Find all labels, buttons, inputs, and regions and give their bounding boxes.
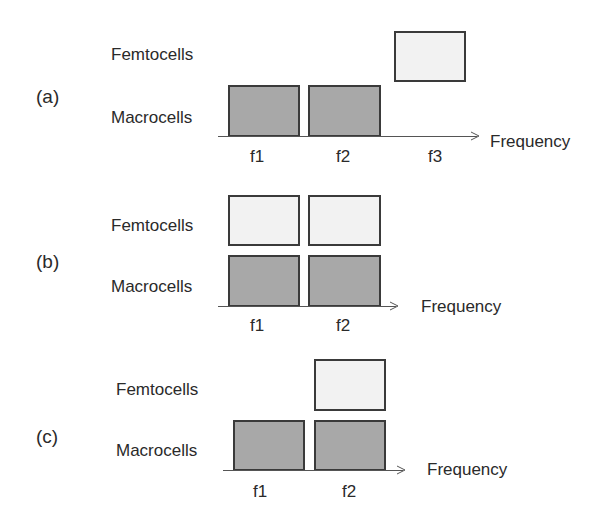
macrocells-label: Macrocells [111,277,192,297]
arrowhead-icon [470,131,480,141]
femtocells-label: Femtocells [111,216,193,236]
macrocell-block-f2 [308,85,381,137]
femtocell-block-f2 [308,195,381,246]
frequency-axis [223,470,403,471]
frequency-axis-label: Frequency [421,297,501,317]
arrowhead-icon [389,301,399,311]
femtocells-label: Femtocells [111,45,193,65]
macrocell-block-f1 [228,255,300,307]
tick-f3: f3 [428,147,442,167]
tick-f2: f2 [336,316,350,336]
arrowhead-icon [396,465,406,475]
macrocells-label: Macrocells [116,441,197,461]
frequency-axis [218,306,396,307]
macrocell-block-f2 [308,255,381,307]
femtocell-block-f2 [314,359,386,411]
macrocell-block-f1 [228,85,300,137]
frequency-axis [218,136,477,137]
panel-label: (a) [36,86,59,108]
tick-f2: f2 [336,147,350,167]
tick-f1: f1 [250,147,264,167]
panel-label: (c) [36,426,58,448]
femtocell-block-f3 [394,31,466,82]
femtocells-label: Femtocells [116,380,198,400]
femtocell-block-f1 [228,195,300,246]
frequency-axis-label: Frequency [490,132,570,152]
tick-f1: f1 [253,482,267,502]
panel-label: (b) [36,251,59,273]
frequency-axis-label: Frequency [427,460,507,480]
macrocell-block-f1 [233,420,305,471]
macrocells-label: Macrocells [111,108,192,128]
macrocell-block-f2 [314,420,386,471]
tick-f2: f2 [342,482,356,502]
tick-f1: f1 [250,316,264,336]
